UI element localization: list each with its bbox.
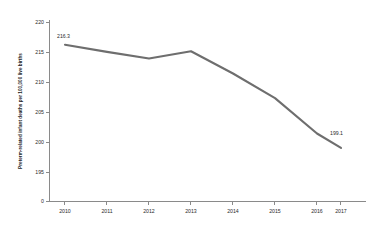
value-label-last: 199.1 [330, 130, 343, 136]
x-tick-label-2014: 2014 [227, 208, 239, 214]
x-tick-label-2016: 2016 [311, 208, 323, 214]
x-tick-label-2011: 2011 [101, 208, 112, 214]
chart-canvas: 220 215 210 205 200 195 0 Preterm-relate… [0, 0, 380, 230]
y-tick-label-210: 210 [35, 79, 44, 85]
y-tick-label-220: 220 [35, 19, 44, 25]
y-tick-label-215: 215 [35, 49, 44, 55]
y-tick-label-195: 195 [35, 169, 44, 175]
y-axis-title: Preterm-related infant deaths per 100,00… [18, 53, 23, 169]
x-tick-label-2010: 2010 [59, 208, 71, 214]
x-tick-label-2015: 2015 [269, 208, 281, 214]
x-tick-label-2017: 2017 [335, 208, 347, 214]
x-tick-label-2013: 2013 [185, 208, 197, 214]
line-chart: 220 215 210 205 200 195 0 Preterm-relate… [0, 0, 380, 230]
y-tick-label-zero: 0 [41, 198, 44, 204]
x-tick-label-2012: 2012 [143, 208, 155, 214]
value-label-first: 216.3 [57, 33, 70, 39]
y-tick-label-205: 205 [35, 109, 44, 115]
y-tick-label-200: 200 [35, 139, 44, 145]
